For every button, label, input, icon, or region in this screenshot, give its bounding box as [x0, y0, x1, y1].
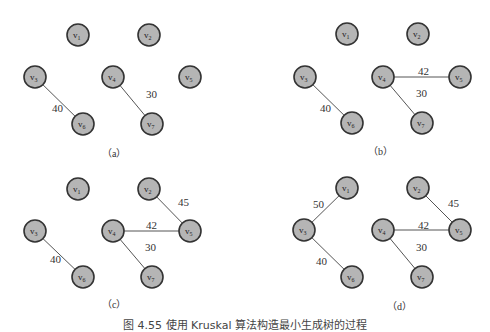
node-v4: v4 — [102, 220, 124, 242]
node-v6: v6 — [341, 266, 363, 288]
node-v4: v4 — [372, 219, 394, 241]
node-v6: v6 — [72, 266, 94, 288]
edge-weight-label: 30 — [145, 241, 157, 253]
node-v5: v5 — [449, 219, 471, 241]
edge-weight-label: 40 — [316, 255, 328, 267]
edge-weight-label: 42 — [146, 219, 157, 231]
panel-d: 5040423045v1v3v2v4v5v6v7（d） — [293, 177, 471, 312]
node-v3: v3 — [294, 66, 316, 88]
panel-label: （b） — [368, 146, 393, 157]
panel-b: 404230v1v2v3v4v5v6v7（b） — [294, 23, 471, 157]
edge-weight-label: 45 — [178, 196, 190, 208]
panel-label: （c） — [102, 299, 126, 310]
edge-weight-label: 40 — [50, 253, 62, 265]
panel-c: 40423045v1v2v3v4v5v6v7（c） — [24, 178, 201, 310]
node-v5: v5 — [179, 66, 201, 88]
node-v1: v1 — [336, 177, 358, 199]
node-v7: v7 — [411, 112, 433, 134]
node-v5: v5 — [449, 66, 471, 88]
panel-label: （a） — [102, 148, 126, 159]
node-v3: v3 — [24, 66, 46, 88]
node-v2: v2 — [138, 178, 160, 200]
node-v1: v1 — [67, 178, 89, 200]
edge-weight-label: 45 — [448, 197, 460, 209]
node-v2: v2 — [407, 177, 429, 199]
node-v3: v3 — [293, 219, 315, 241]
node-v5: v5 — [179, 220, 201, 242]
node-v7: v7 — [141, 113, 163, 135]
node-v7: v7 — [411, 266, 433, 288]
node-v1: v1 — [336, 23, 358, 45]
node-v2: v2 — [407, 23, 429, 45]
node-v6: v6 — [341, 112, 363, 134]
node-v7: v7 — [141, 266, 163, 288]
panel-a: 4030v1v2v3v4v5v6v7（a） — [24, 24, 201, 159]
node-v3: v3 — [24, 220, 46, 242]
figure-caption: 图 4.55 使用 Kruskal 算法构造最小生成树的过程 — [0, 316, 490, 332]
edge-weight-label: 42 — [418, 219, 429, 231]
node-v4: v4 — [372, 66, 394, 88]
edge-weight-label: 30 — [146, 88, 158, 100]
node-v4: v4 — [102, 66, 124, 88]
edge-weight-label: 30 — [416, 87, 428, 99]
edge-weight-label: 40 — [52, 102, 64, 114]
edge-weight-label: 50 — [313, 198, 325, 210]
edge-weight-label: 30 — [416, 241, 428, 253]
edge-weight-label: 42 — [418, 65, 429, 77]
node-v2: v2 — [138, 24, 160, 46]
node-v1: v1 — [67, 24, 89, 46]
edge-weight-label: 40 — [320, 102, 332, 114]
panel-label: （d） — [387, 301, 412, 312]
node-v6: v6 — [72, 113, 94, 135]
